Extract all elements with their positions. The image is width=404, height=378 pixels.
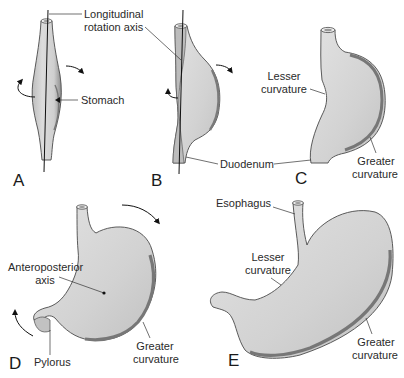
c-lesser-leader: [310, 89, 325, 94]
panel-label-b: B: [151, 172, 162, 190]
panel-a-stomach: [32, 19, 61, 160]
e-greater-curvature-label-line1: Greater: [348, 336, 404, 349]
stomach-rotation-diagram: Longitudinal rotation axis Stomach Duode…: [0, 0, 404, 378]
stomach-label: Stomach: [81, 94, 124, 107]
d-greater-curvature-label-line1: Greater: [127, 340, 183, 353]
rotation-arrow-d-right-icon: [122, 205, 158, 222]
e-lesser-curvature-label-line1: Lesser: [240, 251, 296, 264]
d-greater-curvature-label-line2: curvature: [127, 353, 185, 366]
anteroposterior-axis-label-line2: axis: [8, 274, 82, 287]
panel-label-a: A: [13, 172, 24, 190]
longitudinal-axis-label-line1: Longitudinal: [84, 8, 143, 21]
longitudinal-axis-label-line2: rotation axis: [84, 21, 143, 34]
c-greater-curvature-label-line2: curvature: [346, 168, 404, 181]
e-lesser-leader: [271, 278, 281, 285]
esophagus-label: Esophagus: [216, 197, 271, 210]
panel-c-stomach: [310, 27, 385, 163]
duodenum-leader-c: [274, 160, 311, 164]
panel-label-e: E: [228, 352, 239, 370]
e-greater-leader: [366, 318, 372, 334]
diagram-artwork: [0, 0, 404, 378]
d-greater-leader: [143, 322, 150, 338]
rotation-arrow-b-right-icon: [216, 65, 231, 71]
c-greater-curvature-label-line1: Greater: [348, 155, 404, 168]
anteroposterior-axis-label-line1: Anteroposterior: [8, 261, 82, 274]
duodenum-label: Duodenum: [220, 158, 274, 171]
rotation-arrow-right-icon: [66, 66, 82, 72]
rotation-arrow-d-left-icon: [15, 312, 33, 336]
ap-axis-point-icon: [102, 291, 105, 294]
esophagus-leader: [273, 207, 295, 214]
pylorus-label: Pylorus: [34, 356, 71, 369]
duodenum-leader-b: [186, 157, 218, 164]
panel-e-stomach: [210, 201, 393, 358]
panel-label-c: C: [295, 170, 307, 188]
e-greater-curvature-label-line2: curvature: [346, 349, 404, 362]
panel-label-d: D: [9, 355, 21, 373]
c-lesser-curvature-label-line1: Lesser: [256, 70, 312, 83]
c-greater-leader: [370, 137, 376, 153]
e-lesser-curvature-label-line2: curvature: [240, 264, 296, 277]
c-lesser-curvature-label-line2: curvature: [256, 83, 312, 96]
